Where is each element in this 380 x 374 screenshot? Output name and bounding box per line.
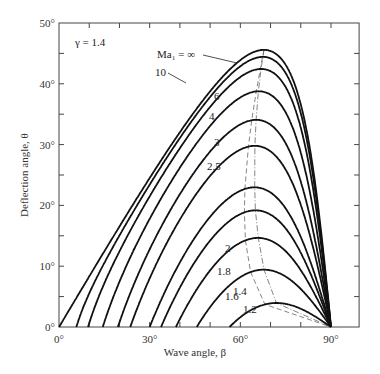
- y-tick-label: 0°: [45, 321, 55, 333]
- x-axis-title: Wave angle, β: [164, 346, 227, 358]
- gamma-annotation: γ = 1.4: [74, 36, 106, 48]
- label-arrow: [203, 55, 237, 63]
- y-tick-label: 40°: [40, 78, 55, 90]
- curve-label: 2: [225, 242, 231, 254]
- y-axis-title: Deflection angle, θ: [18, 133, 30, 217]
- label-arrow: [168, 73, 186, 83]
- curve-label: 1.8: [217, 265, 231, 277]
- y-tick-label: 30°: [40, 139, 55, 151]
- mach-curve-10: [76, 57, 331, 327]
- y-tick-label: 20°: [40, 199, 55, 211]
- x-tick-label: 60°: [233, 333, 248, 345]
- curve-label: 1.2: [243, 303, 257, 315]
- oblique-shock-chart: 0°30°60°90°0°10°20°30°40°50° Ma₁ = ∞1064…: [0, 0, 380, 374]
- curve-label: 3: [214, 136, 220, 148]
- mach-curve-Ma1: [59, 50, 330, 327]
- mach-curve-6: [88, 69, 331, 327]
- curve-label: 4: [209, 110, 215, 122]
- x-tick-label: 30°: [142, 333, 157, 345]
- theta-max-locus: [255, 50, 331, 327]
- mach-curve-1-4: [197, 270, 331, 327]
- y-tick-label: 10°: [40, 260, 55, 272]
- mach-curves: [59, 50, 331, 327]
- curve-label: 10: [155, 66, 167, 78]
- curve-label: Ma₁ = ∞: [157, 48, 195, 60]
- curve-label: 1.4: [233, 285, 247, 297]
- x-tick-label: 0°: [54, 333, 64, 345]
- curve-label: 6: [214, 90, 220, 102]
- y-tick-label: 50°: [40, 17, 55, 29]
- x-tick-label: 90°: [323, 333, 338, 345]
- curve-label: 2.5: [207, 160, 221, 172]
